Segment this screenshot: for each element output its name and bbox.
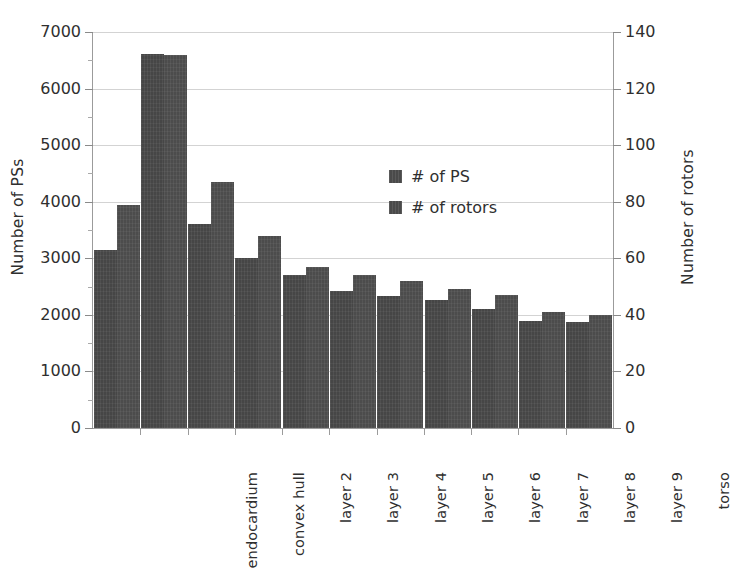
y-axis-right-tick-label: 80 [625, 194, 695, 210]
y-axis-right-tick-label: 40 [625, 307, 695, 323]
x-axis-category-tick [140, 428, 141, 435]
bar-ps [425, 300, 448, 428]
bar-rotors [164, 55, 187, 428]
bar-ps [141, 54, 164, 429]
bar-rotors [211, 182, 234, 428]
y-axis-right-tick-label: 20 [625, 363, 695, 379]
bar-rotors [448, 289, 471, 428]
x-axis-spine [92, 428, 614, 429]
y-axis-right-spine [613, 32, 614, 428]
y-axis-left-minor-tick [88, 60, 93, 61]
x-axis-label: endocardium [244, 472, 260, 572]
bar-rotors [117, 205, 140, 428]
y-axis-left-tick [85, 258, 93, 259]
legend-swatch-icon [389, 170, 402, 183]
x-axis-category-tick [518, 428, 519, 435]
y-axis-right-tick [613, 145, 621, 146]
bar-ps [283, 275, 306, 428]
x-axis-category-tick [188, 428, 189, 435]
y-axis-left-tick [85, 371, 93, 372]
y-axis-left-minor-tick [88, 343, 93, 344]
y-axis-left-tick [85, 202, 93, 203]
x-axis-category-tick [235, 428, 236, 435]
x-axis-label: layer 4 [433, 472, 449, 572]
x-axis-label: convex hull [291, 472, 307, 572]
chart-legend: # of PS# of rotors [389, 161, 549, 223]
y-axis-left-tick [85, 315, 93, 316]
y-axis-left-tick [85, 89, 93, 90]
y-axis-right-tick [613, 371, 621, 372]
y-axis-left-tick-label: 2000 [11, 307, 81, 323]
legend-item: # of rotors [389, 192, 549, 223]
bar-ps [94, 250, 117, 428]
legend-item-label: # of PS [411, 169, 470, 185]
y-axis-left-tick-label: 0 [11, 420, 81, 436]
y-axis-left-minor-tick [88, 173, 93, 174]
x-axis-category-tick [424, 428, 425, 435]
legend-swatch-icon [389, 201, 402, 214]
y-axis-left-tick-label: 3000 [11, 250, 81, 266]
x-axis-label: layer 6 [527, 472, 543, 572]
x-axis-label: layer 3 [385, 472, 401, 572]
bar-rotors [495, 295, 518, 428]
x-axis-label: torso [716, 472, 732, 572]
y-axis-left-minor-tick [88, 230, 93, 231]
legend-item: # of PS [389, 161, 549, 192]
y-axis-left-tick-label: 4000 [11, 194, 81, 210]
x-axis-label: layer 8 [622, 472, 638, 572]
x-axis-category-tick [377, 428, 378, 435]
x-axis-category-tick [566, 428, 567, 435]
bar-ps [566, 322, 589, 428]
legend-item-label: # of rotors [411, 200, 497, 216]
y-axis-title-right: Number of rotors [679, 142, 697, 292]
gridline [93, 32, 613, 33]
bar-rotors [542, 312, 565, 428]
bar-rotors [589, 315, 612, 428]
y-axis-left-tick-label: 1000 [11, 363, 81, 379]
y-axis-right-tick [613, 32, 621, 33]
plot-area: 01000200030004000500060007000 0204060801… [93, 32, 613, 428]
y-axis-right-tick-label: 60 [625, 250, 695, 266]
y-axis-right-tick-label: 0 [625, 420, 695, 436]
y-axis-left-tick [85, 428, 93, 429]
y-axis-left-minor-tick [88, 287, 93, 288]
y-axis-right-tick [613, 258, 621, 259]
bar-ps [472, 309, 495, 428]
y-axis-right-tick-label: 100 [625, 137, 695, 153]
x-axis-label: layer 2 [338, 472, 354, 572]
x-axis-category-tick [329, 428, 330, 435]
y-axis-right-tick-label: 140 [625, 24, 695, 40]
y-axis-left-tick-label: 6000 [11, 81, 81, 97]
x-axis-category-tick [471, 428, 472, 435]
y-axis-left-minor-tick [88, 400, 93, 401]
y-axis-right-tick [613, 315, 621, 316]
bar-ps [235, 258, 258, 428]
bar-rotors [353, 275, 376, 428]
x-axis-label: layer 9 [669, 472, 685, 572]
x-axis-label: layer 7 [575, 472, 591, 572]
bar-ps [330, 291, 353, 428]
y-axis-title-left: Number of PSs [9, 142, 27, 292]
y-axis-right-tick-label: 120 [625, 81, 695, 97]
bar-rotors [306, 267, 329, 428]
bar-rotors [400, 281, 423, 428]
y-axis-left-tick-label: 7000 [11, 24, 81, 40]
bar-ps [188, 224, 211, 428]
x-axis-label: layer 5 [480, 472, 496, 572]
y-axis-left-tick [85, 145, 93, 146]
y-axis-right-tick [613, 89, 621, 90]
y-axis-right-tick [613, 202, 621, 203]
y-axis-right-tick [613, 428, 621, 429]
y-axis-left-tick-label: 5000 [11, 137, 81, 153]
bar-ps [519, 321, 542, 428]
bar-ps [377, 296, 400, 428]
x-axis-category-tick [282, 428, 283, 435]
bar-rotors [258, 236, 281, 428]
y-axis-left-tick [85, 32, 93, 33]
y-axis-left-minor-tick [88, 117, 93, 118]
